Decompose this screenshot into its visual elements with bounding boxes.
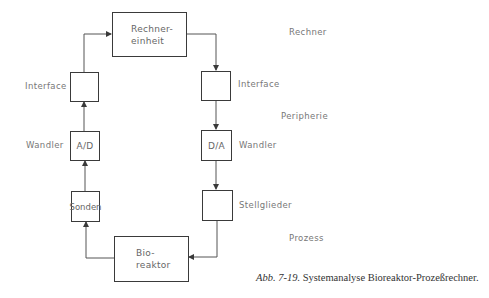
bioreactor-line2: reaktor bbox=[136, 259, 171, 271]
figure-title: Systemanalyse Bioreaktor-Prozeßrechner. bbox=[300, 272, 479, 283]
ad-converter-block: A/D bbox=[70, 131, 100, 161]
arrow-bioreactor-to-probes bbox=[86, 222, 114, 258]
interface-left-block bbox=[70, 72, 99, 102]
level-periphery-label: Peripherie bbox=[281, 111, 328, 121]
bioreactor-line1: Bio- bbox=[136, 247, 155, 259]
interface-right-label: Interface bbox=[238, 79, 280, 89]
actuators-block bbox=[202, 190, 233, 221]
actuators-label: Stellglieder bbox=[239, 200, 292, 210]
converter-left-label: Wandler bbox=[26, 140, 64, 150]
arrow-actuators-to-bioreactor bbox=[189, 220, 217, 257]
interface-right-block bbox=[201, 71, 231, 101]
converter-right-label: Wandler bbox=[239, 140, 277, 150]
arrow-interface-to-computer bbox=[84, 34, 111, 72]
figure-caption: Abb. 7-19. Systemanalyse Bioreaktor-Proz… bbox=[256, 272, 479, 283]
figure-number: Abb. 7-19. bbox=[256, 272, 300, 283]
computer-unit-block: Rechner- einheit bbox=[112, 12, 187, 57]
probes-label: Sonden bbox=[70, 201, 102, 213]
da-converter-block: D/A bbox=[201, 130, 232, 161]
ad-converter-label: A/D bbox=[76, 140, 93, 152]
level-computer-label: Rechner bbox=[289, 27, 327, 37]
interface-left-label: Interface bbox=[25, 81, 67, 91]
computer-unit-line1: Rechner- bbox=[131, 23, 173, 35]
da-converter-label: D/A bbox=[208, 140, 225, 152]
probes-block: Sonden bbox=[71, 191, 100, 222]
computer-unit-line2: einheit bbox=[131, 35, 164, 47]
level-process-label: Prozess bbox=[289, 233, 324, 243]
bioreactor-block: Bio- reaktor bbox=[114, 236, 189, 282]
arrow-computer-to-interface bbox=[186, 34, 216, 70]
